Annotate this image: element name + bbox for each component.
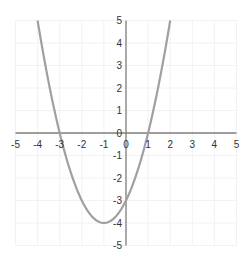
y-tick-label: -2 [113,173,122,184]
y-tick-label: -5 [113,240,122,251]
axes [16,21,237,246]
y-tick-label: -1 [113,150,122,161]
x-tick-label: -3 [55,139,64,150]
x-tick-label: 1 [145,139,151,150]
y-tick-label: 5 [116,15,122,26]
y-tick-label: 2 [116,83,122,94]
y-tick-label: 4 [116,38,122,49]
x-tick-label: -2 [77,139,86,150]
x-tick-label: 3 [190,139,196,150]
x-tick-label: 5 [234,139,240,150]
x-tick-labels: -5-4-3-2-1012345 [11,139,240,150]
parabola-chart: -5-4-3-2-1012345 543210-1-2-3-4-5 [0,0,248,262]
y-tick-label: 1 [116,105,122,116]
y-tick-label: 0 [116,128,122,139]
x-tick-label: 2 [167,139,173,150]
x-tick-label: -4 [33,139,42,150]
y-tick-label: 3 [116,60,122,71]
x-tick-label: -1 [99,139,108,150]
x-tick-label: 0 [123,139,129,150]
y-tick-label: -3 [113,195,122,206]
x-tick-label: 4 [212,139,218,150]
x-tick-label: -5 [11,139,20,150]
y-tick-label: -4 [113,218,122,229]
